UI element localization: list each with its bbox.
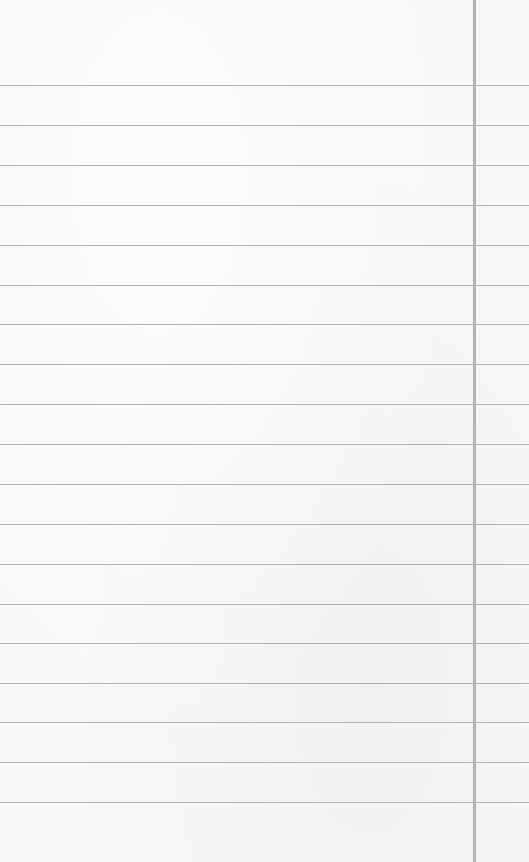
ruled-line [0,165,529,166]
ruled-line [0,245,529,246]
ruled-line [0,564,529,565]
ruled-line [0,125,529,126]
ruled-line [0,444,529,445]
ruled-line [0,524,529,525]
ruled-line [0,802,529,803]
ruled-line [0,722,529,723]
ruled-line [0,683,529,684]
ruled-line [0,324,529,325]
margin-line [473,0,476,862]
ruled-line [0,762,529,763]
ruled-line [0,404,529,405]
ruled-line [0,643,529,644]
ruled-line [0,85,529,86]
ruled-line [0,364,529,365]
lined-paper [0,0,529,862]
ruled-line [0,484,529,485]
ruled-line [0,205,529,206]
ruled-line [0,285,529,286]
ruled-line [0,604,529,605]
